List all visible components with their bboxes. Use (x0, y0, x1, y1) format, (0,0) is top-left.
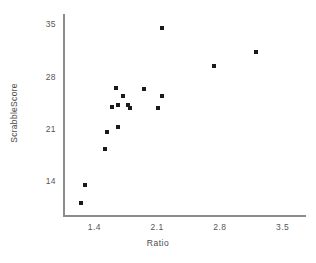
x-axis-tick-label: 1.4 (88, 222, 101, 232)
data-point (160, 26, 164, 30)
y-axis-title: ScrabbleScore (9, 63, 19, 163)
data-point (83, 183, 87, 187)
data-point (212, 64, 216, 68)
x-axis-tick-labels: 1.42.12.83.5 (0, 222, 316, 236)
data-point (105, 130, 109, 134)
data-point (79, 201, 83, 205)
x-axis-tick-label: 2.1 (151, 222, 164, 232)
scatter-plot-figure: 35282114 1.42.12.83.5 Ratio ScrabbleScor… (0, 0, 316, 263)
y-axis-tick-label: 21 (46, 124, 56, 134)
plot-area (63, 14, 305, 216)
data-point (254, 50, 258, 54)
data-point (121, 94, 125, 98)
x-axis-tick-label: 2.8 (213, 222, 226, 232)
data-point (110, 105, 114, 109)
data-point (128, 106, 132, 110)
data-point (156, 106, 160, 110)
data-point (114, 86, 118, 90)
x-axis-title: Ratio (0, 238, 316, 248)
data-point (116, 125, 120, 129)
data-point (116, 103, 120, 107)
data-point (160, 94, 164, 98)
data-point (142, 87, 146, 91)
y-axis-tick-label: 14 (46, 176, 56, 186)
data-point (103, 147, 107, 151)
y-axis-tick-label: 28 (46, 72, 56, 82)
x-axis-tick-label: 3.5 (276, 222, 289, 232)
y-axis-tick-label: 35 (46, 19, 56, 29)
